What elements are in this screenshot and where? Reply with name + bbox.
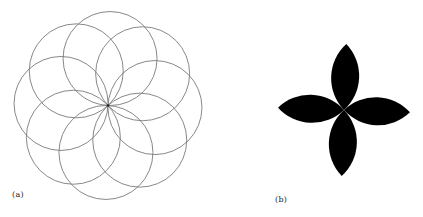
center-point (107, 104, 109, 106)
panel-b: (b) (220, 0, 423, 217)
overlapping-circles-figure (0, 0, 220, 217)
circle (26, 90, 120, 184)
circle (96, 27, 190, 121)
petal (330, 44, 360, 111)
panel-b-label: (b) (275, 195, 287, 204)
circle (63, 12, 157, 106)
circle (29, 24, 123, 118)
four-petal-figure (220, 0, 423, 217)
circle (59, 105, 153, 199)
panel-a-label: (a) (12, 190, 24, 199)
circle (14, 56, 108, 150)
petal (278, 94, 345, 124)
petal (328, 110, 358, 177)
circle (93, 93, 187, 187)
petal (344, 96, 411, 126)
circle (108, 61, 202, 155)
panel-a: (a) (0, 0, 220, 217)
